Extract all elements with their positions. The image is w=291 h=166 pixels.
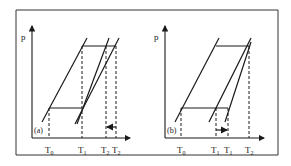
panel-tag: (a)	[34, 126, 43, 135]
panel-b-frame	[146, 10, 278, 155]
left-boundary-line	[175, 38, 219, 122]
tick-T2: T2	[112, 145, 121, 156]
tick-T1: T1	[78, 145, 87, 156]
tick-T1: T1	[224, 145, 233, 156]
tick-T0: T0	[45, 145, 54, 156]
tick-T2: T2	[245, 145, 254, 156]
diagram-canvas: p (a) T0 T1 T2 T2 p (b)	[0, 0, 291, 166]
tick-T1-prime: T1	[211, 145, 220, 156]
panel-tag: (b)	[167, 126, 177, 135]
y-axis-label: p	[154, 32, 159, 42]
right-line-outer	[209, 38, 251, 122]
tick-T2-prime: T2	[101, 145, 110, 156]
tick-T0: T0	[177, 145, 186, 156]
y-axis-label: p	[21, 32, 26, 42]
panel-a: p (a) T0 T1 T2 T2	[16, 10, 146, 156]
panel-b: p (b) T0 T1 T1 T2	[16, 10, 278, 156]
dashed-guides	[49, 46, 116, 138]
